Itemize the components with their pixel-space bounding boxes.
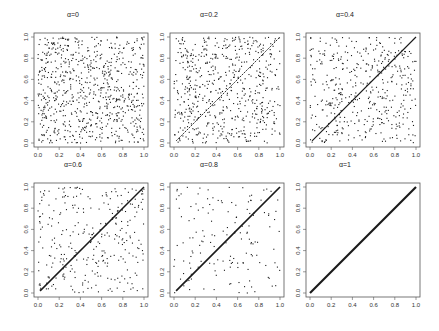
scatter-panel-alpha-0.6: α=0.6 0.00.20.40.60.81.00.00.20.40.60.81…: [0, 150, 146, 315]
y-tick-label: 0.4: [23, 96, 29, 105]
y-tick-label: 0.8: [159, 53, 165, 62]
x-tick-label: 0.8: [255, 302, 264, 308]
scatter-panel-alpha-0: α=0 0.00.20.40.60.81.00.00.20.40.60.81.0: [0, 0, 146, 165]
y-tick-label: 0.2: [295, 267, 301, 276]
y-tick-label: 0.4: [23, 246, 29, 255]
y-tick-label: 0.0: [295, 138, 301, 147]
x-tick-label: 1.0: [412, 302, 421, 308]
y-tick-label: 0.4: [159, 96, 165, 105]
scatter-plot: 0.00.20.40.60.81.00.00.20.40.60.81.0: [272, 0, 418, 165]
diagonal-line: [310, 187, 416, 293]
x-tick-label: 0.0: [306, 302, 315, 308]
x-tick-label: 0.6: [233, 302, 242, 308]
y-tick-label: 1.0: [295, 32, 301, 41]
y-tick-label: 0.8: [23, 53, 29, 62]
y-tick-label: 1.0: [295, 182, 301, 191]
x-tick-label: 0.4: [212, 302, 221, 308]
y-tick-label: 0.4: [295, 96, 301, 105]
y-tick-label: 0.2: [23, 117, 29, 126]
x-tick-label: 0.2: [191, 302, 200, 308]
scatter-plot: 0.00.20.40.60.81.00.00.20.40.60.81.0: [272, 150, 418, 315]
scatter-plot: 0.00.20.40.60.81.00.00.20.40.60.81.0: [136, 0, 282, 165]
y-tick-label: 1.0: [159, 32, 165, 41]
figure-grid: α=0 0.00.20.40.60.81.00.00.20.40.60.81.0…: [0, 0, 439, 331]
y-tick-label: 0.4: [295, 246, 301, 255]
diagonal-points: [176, 37, 280, 141]
y-tick-label: 0.6: [295, 75, 301, 84]
x-tick-label: 0.8: [119, 302, 128, 308]
scatter-panel-alpha-0.2: α=0.2 0.00.20.40.60.81.00.00.20.40.60.81…: [136, 0, 282, 165]
scatter-plot: 0.00.20.40.60.81.00.00.20.40.60.81.0: [136, 150, 282, 315]
y-tick-label: 0.8: [295, 53, 301, 62]
y-tick-label: 0.0: [159, 138, 165, 147]
y-tick-label: 0.2: [159, 117, 165, 126]
x-tick-label: 0.6: [369, 302, 378, 308]
y-tick-label: 0.4: [159, 246, 165, 255]
scatter-plot: 0.00.20.40.60.81.00.00.20.40.60.81.0: [0, 0, 146, 165]
scatter-panel-alpha-0.4: α=0.4 0.00.20.40.60.81.00.00.20.40.60.81…: [272, 0, 418, 165]
x-tick-label: 0.4: [348, 302, 357, 308]
y-tick-label: 1.0: [23, 32, 29, 41]
y-tick-label: 0.0: [23, 288, 29, 297]
scatter-points: [38, 37, 145, 144]
y-tick-label: 0.6: [23, 75, 29, 84]
diagonal-points: [40, 187, 144, 291]
y-tick-label: 0.6: [23, 225, 29, 234]
scatter-panel-alpha-1: α=1 0.00.20.40.60.81.00.00.20.40.60.81.0: [272, 150, 418, 315]
y-tick-label: 0.6: [159, 75, 165, 84]
x-tick-label: 0.2: [327, 302, 336, 308]
y-tick-label: 0.2: [23, 267, 29, 276]
y-tick-label: 0.8: [295, 203, 301, 212]
x-tick-label: 0.8: [391, 302, 400, 308]
scatter-panel-alpha-0.8: α=0.8 0.00.20.40.60.81.00.00.20.40.60.81…: [136, 150, 282, 315]
y-tick-label: 0.8: [159, 203, 165, 212]
x-tick-label: 0.6: [97, 302, 106, 308]
y-tick-label: 0.0: [23, 138, 29, 147]
y-tick-label: 0.6: [159, 225, 165, 234]
x-tick-label: 0.0: [34, 302, 43, 308]
diagonal-points: [176, 187, 280, 291]
x-tick-label: 0.2: [55, 302, 64, 308]
y-tick-label: 0.2: [159, 267, 165, 276]
diagonal-points: [312, 37, 416, 141]
y-tick-label: 0.2: [295, 117, 301, 126]
y-tick-label: 1.0: [159, 182, 165, 191]
y-tick-label: 0.0: [295, 288, 301, 297]
scatter-plot: 0.00.20.40.60.81.00.00.20.40.60.81.0: [0, 150, 146, 315]
y-tick-label: 1.0: [23, 182, 29, 191]
y-tick-label: 0.8: [23, 203, 29, 212]
y-tick-label: 0.0: [159, 288, 165, 297]
y-tick-label: 0.6: [295, 225, 301, 234]
x-tick-label: 0.0: [170, 302, 179, 308]
x-tick-label: 0.4: [76, 302, 85, 308]
